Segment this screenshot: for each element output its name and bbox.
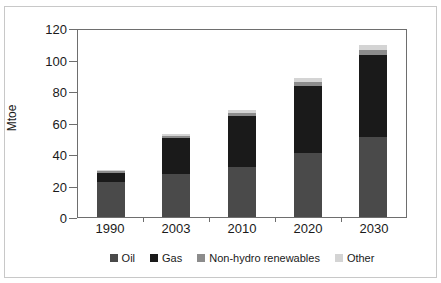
bar-segment-oil[interactable] [359, 137, 387, 217]
legend-label: Other [347, 252, 375, 264]
bar-group [78, 30, 406, 217]
chart-figure: Mtoe 020406080100120 1990200320102020203… [0, 0, 441, 283]
bar-segment-oil[interactable] [162, 174, 190, 217]
y-axis-tick [69, 187, 77, 188]
legend-item[interactable]: Non-hydro renewables [197, 252, 320, 264]
y-axis-tick-label: 80 [23, 85, 67, 100]
legend-swatch-icon [110, 254, 118, 262]
plot-area [77, 29, 407, 218]
x-axis-tick-label: 1990 [83, 221, 137, 236]
y-axis-tick [69, 29, 77, 30]
x-axis-labels: 19902003201020202030 [77, 221, 407, 241]
bar-segment-gas[interactable] [228, 116, 256, 166]
bar-column[interactable] [294, 30, 322, 217]
legend-label: Gas [162, 252, 182, 264]
bar-segment-gas[interactable] [294, 86, 322, 153]
y-axis-tick [69, 124, 77, 125]
x-axis-tick [209, 218, 210, 222]
x-axis-tick-label: 2020 [281, 221, 335, 236]
y-axis-tick-label: 120 [23, 22, 67, 37]
bar-segment-gas[interactable] [162, 138, 190, 174]
x-axis-tick-label: 2003 [149, 221, 203, 236]
y-axis-tick-label: 40 [23, 148, 67, 163]
legend-item[interactable]: Oil [110, 252, 135, 264]
x-axis-tick [143, 218, 144, 222]
chart-frame: Mtoe 020406080100120 1990200320102020203… [4, 6, 437, 278]
chart-legend: OilGasNon-hydro renewablesOther [77, 249, 407, 267]
x-axis-tick-label: 2010 [215, 221, 269, 236]
legend-swatch-icon [335, 254, 343, 262]
legend-label: Non-hydro renewables [209, 252, 320, 264]
bar-column[interactable] [359, 30, 387, 217]
y-axis-tick-label: 60 [23, 116, 67, 131]
bar-segment-oil[interactable] [294, 153, 322, 217]
legend-swatch-icon [197, 254, 205, 262]
y-axis-tick-label: 100 [23, 53, 67, 68]
y-axis-tick [69, 218, 77, 219]
bar-column[interactable] [97, 30, 125, 217]
y-axis-tick [69, 155, 77, 156]
x-axis-tick [275, 218, 276, 222]
bar-column[interactable] [162, 30, 190, 217]
legend-item[interactable]: Gas [150, 252, 182, 264]
bar-segment-oil[interactable] [97, 182, 125, 217]
bar-segment-oil[interactable] [228, 167, 256, 217]
x-axis-tick [341, 218, 342, 222]
y-axis-tick-label: 0 [23, 211, 67, 226]
legend-item[interactable]: Other [335, 252, 375, 264]
legend-label: Oil [122, 252, 135, 264]
bar-segment-gas[interactable] [97, 173, 125, 182]
bar-segment-gas[interactable] [359, 55, 387, 137]
y-axis-labels: 020406080100120 [19, 7, 67, 277]
y-axis-title: Mtoe [5, 105, 19, 132]
x-axis-tick-label: 2030 [347, 221, 401, 236]
bar-column[interactable] [228, 30, 256, 217]
legend-swatch-icon [150, 254, 158, 262]
y-axis-tick-label: 20 [23, 179, 67, 194]
y-axis-tick [69, 61, 77, 62]
y-axis-tick [69, 92, 77, 93]
